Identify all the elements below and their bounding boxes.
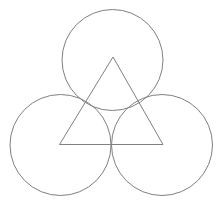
circles-triangle-diagram [0, 0, 222, 202]
triangle [60, 57, 164, 145]
diagram-canvas [0, 0, 222, 202]
circle-top [62, 10, 163, 111]
